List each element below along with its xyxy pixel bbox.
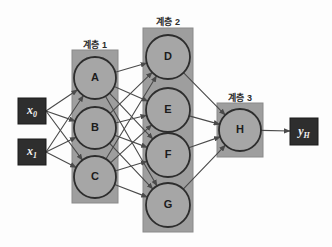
input-x1[interactable] (18, 139, 46, 165)
edge-E-H (189, 116, 220, 124)
node-d[interactable] (146, 35, 190, 79)
node-g[interactable] (146, 183, 190, 227)
node-f[interactable] (146, 133, 190, 177)
output-yh[interactable] (290, 118, 318, 145)
node-c[interactable] (74, 156, 116, 198)
node-b[interactable] (74, 107, 116, 149)
edge-H-yH (261, 130, 290, 131)
edge-A-D (115, 63, 147, 72)
layer-3-caption: 계층 3 (217, 91, 263, 104)
layer-1-caption: 계층 1 (72, 38, 118, 51)
node-h[interactable] (219, 109, 261, 151)
node-e[interactable] (146, 88, 190, 132)
input-x0[interactable] (18, 98, 46, 124)
node-a[interactable] (74, 57, 116, 99)
network-canvas (0, 0, 332, 247)
neural-network-diagram: 계층 1계층 2계층 3 ABCDEFGHx0x1yH (0, 0, 332, 247)
edge-C-F (115, 161, 147, 171)
layer-2-caption: 계층 2 (143, 15, 193, 28)
